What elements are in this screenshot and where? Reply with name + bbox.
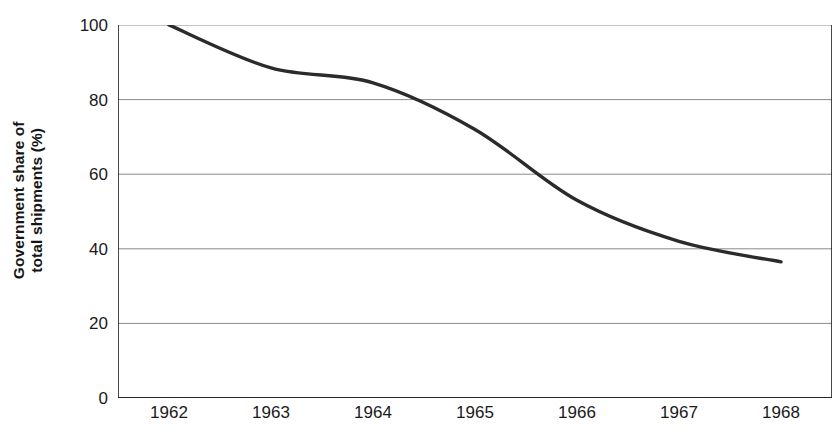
x-tick-label-1968: 1968 (762, 404, 800, 421)
y-tick-label-0: 0 (56, 390, 108, 407)
plot-svg (118, 25, 832, 398)
gridlines (118, 25, 832, 398)
line-chart: Government share of total shipments (%) … (0, 0, 840, 447)
plot-area (118, 25, 832, 398)
y-tick-label-20: 20 (56, 315, 108, 332)
axis-lines (118, 25, 832, 398)
x-tick-label-1964: 1964 (354, 404, 392, 421)
x-axis-tick-labels: 1962196319641965196619671968 (118, 404, 832, 434)
y-axis-title-line-2: total shipments (%) (28, 121, 46, 279)
x-tick-label-1967: 1967 (660, 404, 698, 421)
x-tick-label-1965: 1965 (456, 404, 494, 421)
y-tick-label-40: 40 (56, 240, 108, 257)
x-tick-label-1962: 1962 (150, 404, 188, 421)
y-axis-tick-labels: 020406080100 (52, 0, 108, 447)
data-series-line (169, 25, 781, 262)
y-axis-title: Government share of total shipments (%) (0, 0, 56, 400)
y-tick-label-100: 100 (56, 17, 108, 34)
axis-tick-marks (118, 25, 832, 398)
y-tick-label-60: 60 (56, 166, 108, 183)
y-axis-title-line-1: Government share of (10, 121, 28, 279)
x-tick-label-1963: 1963 (252, 404, 290, 421)
y-tick-label-80: 80 (56, 91, 108, 108)
x-tick-label-1966: 1966 (558, 404, 596, 421)
